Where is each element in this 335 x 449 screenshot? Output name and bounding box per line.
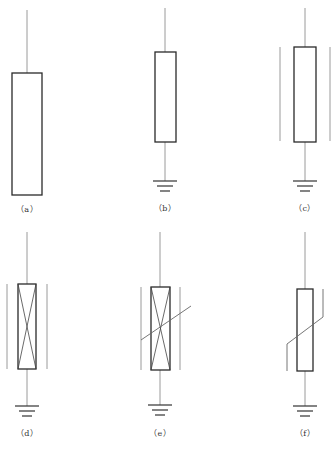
- figure-d: [7, 232, 47, 416]
- caption-b: （b）: [154, 202, 177, 213]
- component-box: [294, 47, 316, 142]
- figure-c: [280, 8, 330, 191]
- figure-a: [12, 10, 42, 195]
- figure-e: [141, 232, 191, 415]
- diagram-canvas: [0, 0, 335, 449]
- figure-b: [153, 8, 177, 191]
- caption-f: （f）: [295, 427, 315, 438]
- caption-e: （e）: [149, 427, 171, 438]
- caption-a: （a）: [16, 203, 38, 214]
- figure-f: [287, 232, 323, 416]
- caption-d: （d）: [16, 427, 39, 438]
- component-box: [155, 52, 176, 142]
- component-box: [12, 73, 42, 195]
- caption-c: （c）: [294, 202, 316, 213]
